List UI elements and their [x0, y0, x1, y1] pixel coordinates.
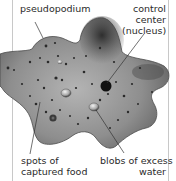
- nucleus: [101, 81, 112, 92]
- water-blob: [61, 89, 71, 97]
- control-center-label: control center (nucleus): [122, 3, 166, 36]
- excess-water-label: blobs of excess water: [100, 155, 166, 177]
- pseudopodium-label: pseudopodium: [20, 3, 90, 14]
- captured-food-label: spots of captured food: [21, 155, 87, 177]
- water-blob: [58, 60, 63, 64]
- water-blob: [89, 103, 99, 111]
- dark-cytoplasm-region: [132, 64, 164, 80]
- pseudopodium-leader-line: [35, 22, 43, 38]
